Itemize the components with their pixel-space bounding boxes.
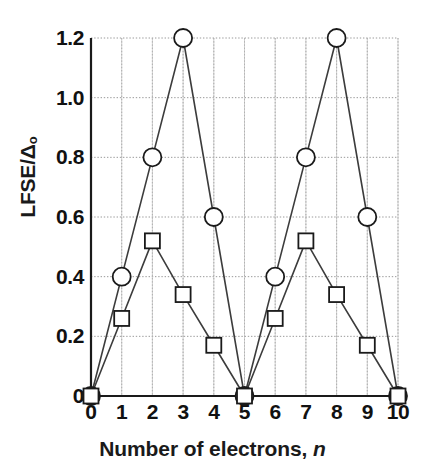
data-point-high-spin-8: [329, 287, 344, 302]
data-point-high-spin-6: [268, 311, 283, 326]
data-point-low-spin-4: [205, 208, 223, 226]
data-point-low-spin-7: [297, 148, 315, 166]
data-point-low-spin-8: [328, 29, 346, 47]
data-point-low-spin-1: [113, 268, 131, 286]
data-point-high-spin-4: [206, 338, 221, 353]
chart-figure: LFSE/Δo 00.20.40.60.81.01.2 012345678910…: [0, 0, 425, 473]
data-point-low-spin-6: [266, 268, 284, 286]
data-point-high-spin-1: [114, 311, 129, 326]
data-point-high-spin-0: [84, 389, 99, 404]
data-point-high-spin-9: [360, 338, 375, 353]
data-point-high-spin-10: [391, 389, 406, 404]
data-point-low-spin-3: [174, 29, 192, 47]
data-point-low-spin-9: [358, 208, 376, 226]
plot-area: [0, 0, 425, 473]
data-point-high-spin-3: [176, 287, 191, 302]
data-point-high-spin-7: [298, 233, 313, 248]
data-point-high-spin-5: [237, 389, 252, 404]
data-point-high-spin-2: [145, 233, 160, 248]
data-point-low-spin-2: [143, 148, 161, 166]
